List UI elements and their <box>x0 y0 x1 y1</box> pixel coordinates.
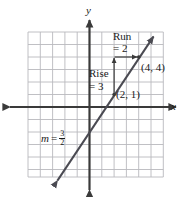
slope-equals-sign: = <box>51 133 57 144</box>
rise-label-line2: = 3 <box>89 81 103 92</box>
x-axis-label: x <box>171 101 176 112</box>
point-label-2-1: (2, 1) <box>116 89 140 100</box>
slope-expression: m = 3 2 <box>41 130 65 148</box>
y-axis-label: y <box>86 5 91 16</box>
rise-label-line1: Rise <box>89 68 109 79</box>
slope-fraction: 3 2 <box>59 130 65 148</box>
coordinate-plane-figure: x y Run = 2 Rise = 3 (4, 4) (2, 1) m = 3… <box>0 0 187 197</box>
run-label-line2: = 2 <box>113 43 127 54</box>
slope-denominator: 2 <box>59 139 65 147</box>
point-label-4-4: (4, 4) <box>141 62 165 73</box>
run-label-line1: Run <box>113 31 131 42</box>
slope-symbol: m <box>41 133 49 144</box>
graph-canvas <box>0 0 187 197</box>
